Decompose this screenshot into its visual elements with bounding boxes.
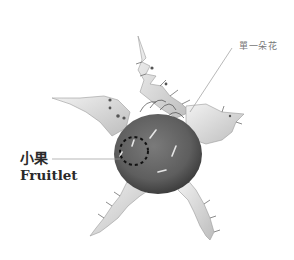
- aggregate-fruit: [114, 114, 202, 194]
- label-fruitlet-zh: 小果: [20, 150, 78, 167]
- illustration-stage: 單一朵花 小果 Fruitlet: [0, 0, 294, 260]
- sepal-bottom-right: [178, 178, 214, 240]
- label-single-flower: 單一朵花: [239, 39, 277, 52]
- label-fruitlet-en: Fruitlet: [20, 167, 78, 184]
- flower-leader-line: [190, 48, 232, 112]
- label-fruitlet: 小果 Fruitlet: [20, 150, 78, 184]
